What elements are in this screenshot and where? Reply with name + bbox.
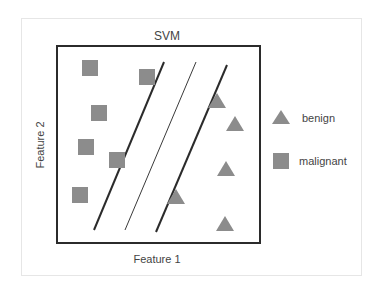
x-axis-label: Feature 1: [133, 253, 180, 265]
triangle-marker-icon: [216, 216, 234, 231]
triangle-marker-icon: [167, 189, 185, 204]
triangle-marker-icon: [208, 93, 226, 108]
triangle-marker-icon: [226, 116, 244, 131]
hyperplane-line: [125, 62, 196, 230]
square-marker-icon: [78, 139, 94, 155]
square-marker-icon: [109, 152, 125, 168]
square-marker-icon: [91, 105, 107, 121]
legend-triangle-icon: [272, 110, 290, 124]
margin-line-right: [156, 65, 227, 232]
y-axis-label: Feature 2: [34, 121, 46, 168]
svm-diagram: SVM Feature 1 Feature 2 benign malignant: [0, 0, 386, 296]
legend-label-benign: benign: [302, 112, 335, 124]
square-marker-icon: [72, 187, 88, 203]
legend: benign malignant: [272, 110, 347, 169]
legend-label-malignant: malignant: [299, 155, 347, 167]
margin-line-left: [94, 62, 164, 230]
square-marker-icon: [139, 69, 155, 85]
triangle-marker-icon: [217, 161, 235, 176]
chart-title: SVM: [154, 29, 180, 43]
square-marker-icon: [82, 60, 98, 76]
legend-square-icon: [273, 153, 289, 169]
